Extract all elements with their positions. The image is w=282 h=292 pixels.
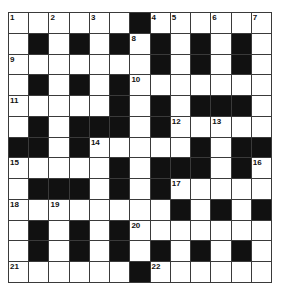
answer-cell[interactable]: 16 (252, 158, 271, 178)
answer-cell[interactable]: 10 (130, 75, 149, 95)
answer-cell[interactable] (211, 138, 230, 158)
answer-cell[interactable] (70, 262, 89, 282)
answer-cell[interactable]: 8 (130, 34, 149, 54)
answer-cell[interactable] (29, 158, 48, 178)
answer-cell[interactable] (252, 55, 271, 75)
answer-cell[interactable] (9, 241, 28, 261)
answer-cell[interactable] (49, 117, 68, 137)
answer-cell[interactable] (70, 96, 89, 116)
answer-cell[interactable] (29, 96, 48, 116)
answer-cell[interactable] (171, 241, 190, 261)
answer-cell[interactable]: 17 (171, 179, 190, 199)
answer-cell[interactable] (49, 96, 68, 116)
answer-cell[interactable] (49, 262, 68, 282)
answer-cell[interactable] (171, 34, 190, 54)
answer-cell[interactable] (191, 221, 210, 241)
answer-cell[interactable] (90, 221, 109, 241)
answer-cell[interactable] (191, 117, 210, 137)
answer-cell[interactable]: 15 (9, 158, 28, 178)
answer-cell[interactable] (252, 96, 271, 116)
answer-cell[interactable]: 18 (9, 200, 28, 220)
answer-cell[interactable] (49, 158, 68, 178)
answer-cell[interactable]: 20 (130, 221, 149, 241)
answer-cell[interactable] (9, 117, 28, 137)
answer-cell[interactable] (9, 221, 28, 241)
answer-cell[interactable] (211, 221, 230, 241)
answer-cell[interactable]: 4 (151, 13, 170, 33)
answer-cell[interactable]: 1 (9, 13, 28, 33)
answer-cell[interactable]: 6 (211, 13, 230, 33)
answer-cell[interactable] (90, 55, 109, 75)
answer-cell[interactable] (90, 200, 109, 220)
answer-cell[interactable] (90, 262, 109, 282)
answer-cell[interactable]: 3 (90, 13, 109, 33)
answer-cell[interactable] (49, 221, 68, 241)
answer-cell[interactable] (130, 96, 149, 116)
answer-cell[interactable] (49, 241, 68, 261)
answer-cell[interactable] (151, 138, 170, 158)
answer-cell[interactable] (171, 55, 190, 75)
answer-cell[interactable] (9, 34, 28, 54)
answer-cell[interactable] (9, 75, 28, 95)
answer-cell[interactable] (130, 55, 149, 75)
answer-cell[interactable] (130, 138, 149, 158)
answer-cell[interactable]: 5 (171, 13, 190, 33)
answer-cell[interactable] (211, 34, 230, 54)
answer-cell[interactable]: 9 (9, 55, 28, 75)
answer-cell[interactable] (211, 158, 230, 178)
answer-cell[interactable] (130, 200, 149, 220)
answer-cell[interactable] (252, 241, 271, 261)
answer-cell[interactable] (252, 34, 271, 54)
answer-cell[interactable] (110, 262, 129, 282)
answer-cell[interactable] (29, 262, 48, 282)
answer-cell[interactable] (110, 138, 129, 158)
answer-cell[interactable] (232, 13, 251, 33)
answer-cell[interactable]: 21 (9, 262, 28, 282)
answer-cell[interactable]: 14 (90, 138, 109, 158)
answer-cell[interactable] (70, 158, 89, 178)
answer-cell[interactable] (191, 13, 210, 33)
answer-cell[interactable] (29, 55, 48, 75)
answer-cell[interactable] (171, 221, 190, 241)
answer-cell[interactable]: 11 (9, 96, 28, 116)
answer-cell[interactable]: 12 (171, 117, 190, 137)
answer-cell[interactable] (90, 241, 109, 261)
answer-cell[interactable] (252, 117, 271, 137)
answer-cell[interactable] (191, 262, 210, 282)
answer-cell[interactable] (232, 75, 251, 95)
answer-cell[interactable] (90, 96, 109, 116)
answer-cell[interactable] (211, 262, 230, 282)
answer-cell[interactable] (191, 75, 210, 95)
answer-cell[interactable] (211, 179, 230, 199)
answer-cell[interactable] (130, 117, 149, 137)
answer-cell[interactable] (110, 55, 129, 75)
answer-cell[interactable] (232, 200, 251, 220)
answer-cell[interactable] (90, 75, 109, 95)
answer-cell[interactable] (110, 13, 129, 33)
answer-cell[interactable] (252, 262, 271, 282)
answer-cell[interactable] (151, 75, 170, 95)
answer-cell[interactable] (49, 55, 68, 75)
answer-cell[interactable] (232, 117, 251, 137)
answer-cell[interactable]: 13 (211, 117, 230, 137)
answer-cell[interactable] (232, 221, 251, 241)
answer-cell[interactable] (232, 179, 251, 199)
answer-cell[interactable] (70, 13, 89, 33)
answer-cell[interactable] (29, 200, 48, 220)
answer-cell[interactable] (171, 262, 190, 282)
answer-cell[interactable] (70, 200, 89, 220)
answer-cell[interactable] (171, 138, 190, 158)
answer-cell[interactable] (130, 241, 149, 261)
answer-cell[interactable] (211, 75, 230, 95)
answer-cell[interactable] (130, 158, 149, 178)
answer-cell[interactable] (252, 221, 271, 241)
answer-cell[interactable] (9, 179, 28, 199)
answer-cell[interactable] (211, 55, 230, 75)
answer-cell[interactable] (211, 241, 230, 261)
answer-cell[interactable] (171, 75, 190, 95)
answer-cell[interactable] (49, 138, 68, 158)
answer-cell[interactable] (151, 221, 170, 241)
answer-cell[interactable] (191, 200, 210, 220)
answer-cell[interactable] (70, 55, 89, 75)
answer-cell[interactable] (90, 158, 109, 178)
